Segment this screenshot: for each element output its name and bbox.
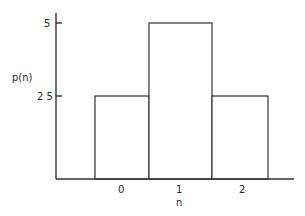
xtick-label-1: 1 [176,184,182,195]
histogram-chart: 5 2 5 p(n) 0 1 2 n [0,0,305,216]
y-axis-label: p(n) [12,72,33,83]
xtick-label-2: 2 [239,184,245,195]
ytick-label-2-5: 2 5 [37,91,53,102]
bar-n-2 [212,96,268,179]
bars [95,23,268,179]
bar-n-0 [95,96,149,179]
xtick-label-0: 0 [118,184,124,195]
ytick-label-5: 5 [44,18,50,29]
x-axis-label: n [176,197,182,208]
bar-n-1 [149,23,212,179]
